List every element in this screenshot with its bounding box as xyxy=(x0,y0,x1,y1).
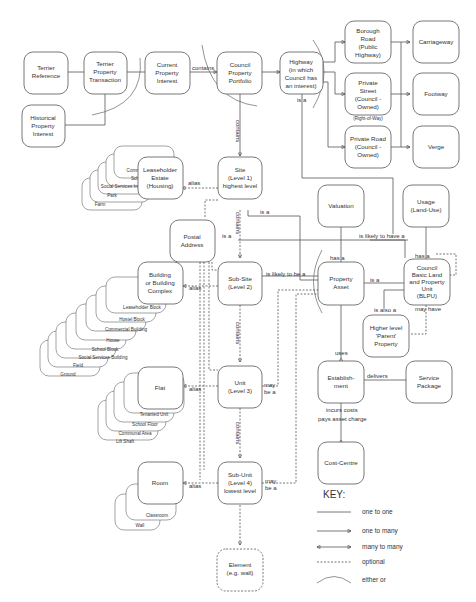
svg-text:Room: Room xyxy=(152,479,169,486)
svg-text:Property: Property xyxy=(93,68,117,75)
svg-text:is likely to be a: is likely to be a xyxy=(266,271,306,277)
svg-text:contains: contains xyxy=(235,422,241,444)
svg-text:Leaseholder: Leaseholder xyxy=(143,166,177,173)
stack-item-house: House xyxy=(106,338,120,343)
entity-sub-site[interactable]: Sub-Site (Level 2) xyxy=(218,262,262,305)
entity-historical-property-interest[interactable]: Historical Property Interest xyxy=(22,105,65,147)
stack-item-school-block: School Block xyxy=(92,347,119,352)
entity-leaseholder-estate[interactable]: Leaseholder Estate (Housing) xyxy=(138,157,183,199)
svg-text:(e.g. wall): (e.g. wall) xyxy=(227,569,254,576)
svg-text:highest level: highest level xyxy=(223,182,257,189)
svg-text:Terrier: Terrier xyxy=(37,64,55,71)
entity-building[interactable]: Building or Building Complex xyxy=(138,262,183,304)
svg-text:Flat: Flat xyxy=(155,384,166,391)
svg-text:may: may xyxy=(265,478,276,484)
svg-text:Owned): Owned) xyxy=(357,151,379,158)
entity-carriageway[interactable]: Carriageway xyxy=(413,21,459,63)
svg-text:'Parent': 'Parent' xyxy=(376,332,397,339)
svg-text:Property: Property xyxy=(374,340,398,347)
entity-terrier-property-transaction[interactable]: Terrier Property Transaction xyxy=(84,52,127,94)
entity-private-road[interactable]: Private Road (Council - Owned) xyxy=(345,126,391,168)
stack-item-field: Field xyxy=(73,363,83,368)
entity-postal-address[interactable]: Postal Address xyxy=(170,220,215,262)
entity-service-package[interactable]: Service Package xyxy=(406,361,452,403)
entity-room[interactable]: Room xyxy=(138,462,183,504)
svg-text:contains: contains xyxy=(235,322,241,344)
svg-text:Footway: Footway xyxy=(424,90,448,97)
svg-text:Portfolio: Portfolio xyxy=(229,77,252,84)
entity-flat[interactable]: Flat xyxy=(138,367,183,409)
svg-text:Private Road: Private Road xyxy=(350,135,386,142)
svg-text:be a: be a xyxy=(264,389,276,395)
svg-text:(Council -: (Council - xyxy=(355,143,381,150)
entity-cost-centre[interactable]: Cost-Centre xyxy=(318,442,364,484)
svg-text:Highway: Highway xyxy=(289,58,314,65)
svg-text:lowest level: lowest level xyxy=(224,487,256,494)
svg-text:Historical: Historical xyxy=(30,114,55,121)
svg-text:Unit: Unit xyxy=(421,285,432,292)
svg-text:Reference: Reference xyxy=(32,72,61,79)
entity-unit[interactable]: Unit (Level 3) xyxy=(218,366,262,408)
svg-text:(Level 1): (Level 1) xyxy=(228,174,252,181)
svg-text:Property: Property xyxy=(155,69,179,76)
entity-sub-unit[interactable]: Sub-Unit (Level 4) lowest level xyxy=(218,462,262,504)
entity-borough-road[interactable]: Borough Road (Public Highway) xyxy=(345,21,391,63)
entity-current-property-interest[interactable]: Current Property Interest xyxy=(145,52,190,94)
stack-item-ground: Ground xyxy=(60,372,76,377)
svg-text:Usage: Usage xyxy=(417,198,435,205)
svg-text:incurs costs: incurs costs xyxy=(326,407,358,413)
legend-optional: optional xyxy=(362,558,385,566)
entity-private-street[interactable]: Private Street (Council - Owned) xyxy=(345,73,391,115)
svg-text:Cost-Centre: Cost-Centre xyxy=(324,459,358,466)
svg-text:Road: Road xyxy=(361,35,376,42)
entity-blpu[interactable]: Council Basic Land and Property Unit (BL… xyxy=(404,259,450,305)
svg-text:Unit: Unit xyxy=(234,379,245,386)
svg-text:Property: Property xyxy=(31,122,55,129)
svg-text:an interest): an interest) xyxy=(286,82,317,89)
entity-establishment[interactable]: Establish- ment xyxy=(318,361,364,403)
svg-text:(Level 3): (Level 3) xyxy=(228,387,252,394)
svg-text:has a: has a xyxy=(415,253,430,259)
svg-text:alias: alias xyxy=(189,386,201,392)
svg-text:(Public: (Public xyxy=(359,43,378,50)
stack-item-park: Park xyxy=(107,193,117,198)
stack-item-commercial-building: Commercial Building xyxy=(105,327,148,332)
svg-text:(Housing): (Housing) xyxy=(147,182,174,189)
svg-text:alias: alias xyxy=(189,483,201,489)
svg-text:(BLPU): (BLPU) xyxy=(417,292,437,299)
entity-higher-level-parent-property[interactable]: Higher level 'Parent' Property xyxy=(363,315,409,357)
entity-element[interactable]: Element (e.g. wall) xyxy=(217,549,263,591)
entity-council-property-portfolio[interactable]: Council Property Portfolio xyxy=(217,52,262,94)
entity-usage[interactable]: Usage (Land-Use) xyxy=(403,185,449,227)
entity-verge[interactable]: Verge xyxy=(413,126,459,168)
svg-text:Council has: Council has xyxy=(285,74,317,81)
svg-text:Interest: Interest xyxy=(157,77,178,84)
svg-text:Package: Package xyxy=(417,382,442,389)
svg-text:is a: is a xyxy=(370,277,380,283)
legend-one-to-one: one to one xyxy=(362,508,393,515)
entity-site[interactable]: Site (Level 1) highest level xyxy=(218,157,262,199)
legend-either-or: either or xyxy=(362,576,387,583)
svg-text:contains: contains xyxy=(235,212,241,234)
stack-item-tenanted-unit: Tenanted Unit xyxy=(140,412,169,417)
svg-text:Street: Street xyxy=(360,87,377,94)
svg-text:Council: Council xyxy=(230,61,251,68)
svg-text:may have: may have xyxy=(415,306,442,312)
stack-item-wall: Wall xyxy=(136,523,145,528)
entity-valuation[interactable]: Valuation xyxy=(318,185,364,227)
entity-highway[interactable]: Highway (in which Council has an interes… xyxy=(280,52,323,94)
svg-text:delivers: delivers xyxy=(367,373,388,379)
entity-property-asset[interactable]: Property Asset xyxy=(318,262,364,305)
svg-text:has a: has a xyxy=(330,255,345,261)
svg-text:Site: Site xyxy=(235,166,246,173)
stack-item-hostel-block: Hostel Block xyxy=(119,317,145,322)
svg-text:alias: alias xyxy=(189,285,201,291)
entity-terrier-reference[interactable]: Terrier Reference xyxy=(24,52,68,94)
svg-text:is a: is a xyxy=(297,97,307,103)
svg-text:be a: be a xyxy=(265,485,277,491)
svg-text:(Level 4): (Level 4) xyxy=(228,479,252,486)
svg-text:Building: Building xyxy=(149,271,172,278)
svg-text:contains: contains xyxy=(192,65,214,71)
entity-footway[interactable]: Footway xyxy=(413,73,459,115)
svg-text:uses: uses xyxy=(335,350,348,356)
